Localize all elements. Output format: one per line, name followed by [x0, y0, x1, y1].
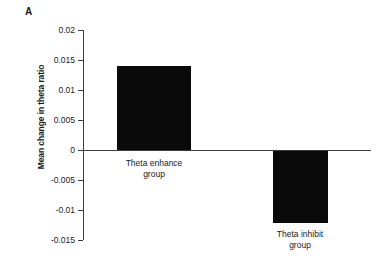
- y-tick-label: -0.005: [15, 175, 75, 185]
- y-tick-label: -0.015: [15, 235, 75, 245]
- y-tick-label: 0.01: [15, 85, 75, 95]
- figure-panel: A Mean change in theta ratio 0.02 0.015 …: [0, 0, 385, 274]
- bar-label-line: Theta enhance: [104, 158, 204, 169]
- y-tick-label: 0.005: [15, 115, 75, 125]
- bar-theta-inhibit: [273, 151, 328, 223]
- y-axis-line: [83, 30, 84, 240]
- y-tick-mark: [78, 240, 83, 241]
- bar-label-line: group: [252, 240, 348, 251]
- y-tick-mark: [78, 210, 83, 211]
- plot-area: 0.02 0.015 0.01 0.005 0 -0.005 -0.01 -0.…: [0, 0, 385, 274]
- bar-label-line: group: [104, 169, 204, 180]
- y-tick-mark: [78, 60, 83, 61]
- bar-label-line: Theta inhibit: [252, 229, 348, 240]
- bar-theta-enhance: [117, 66, 191, 150]
- y-tick-label: 0: [15, 145, 75, 155]
- y-tick-mark: [78, 150, 83, 151]
- bar-label-theta-enhance: Theta enhance group: [104, 158, 204, 180]
- y-tick-mark: [78, 120, 83, 121]
- y-tick-label: 0.015: [15, 55, 75, 65]
- bar-label-theta-inhibit: Theta inhibit group: [252, 229, 348, 251]
- y-tick-label: -0.01: [15, 205, 75, 215]
- y-tick-mark: [78, 30, 83, 31]
- y-tick-label: 0.02: [15, 25, 75, 35]
- y-tick-mark: [78, 180, 83, 181]
- y-tick-mark: [78, 90, 83, 91]
